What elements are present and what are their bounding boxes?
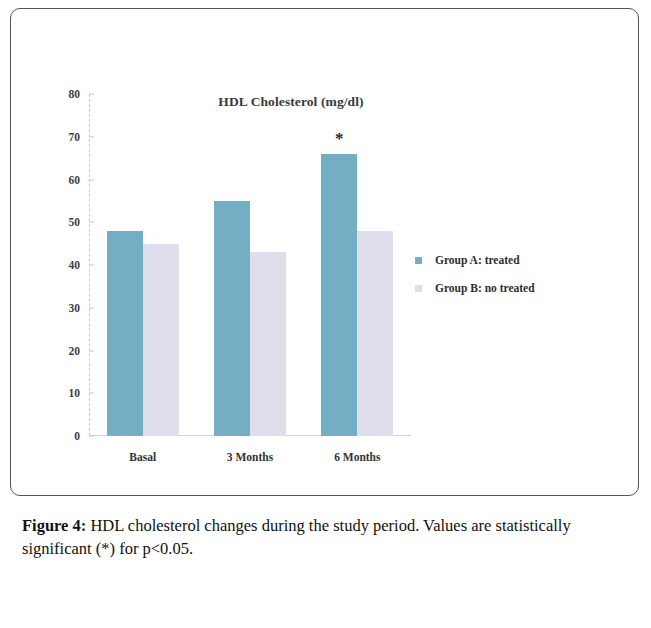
figure-frame: HDL Cholesterol (mg/dl) 0102030405060708… <box>10 8 639 496</box>
bar-group: Basal <box>89 94 196 436</box>
chart-legend: Group A: treatedGroup B: no treated <box>415 254 630 310</box>
y-axis-tick-label: 40 <box>69 259 81 271</box>
bar-group-b <box>250 252 286 436</box>
bar-group-a <box>107 231 143 436</box>
y-axis-tick-label: 0 <box>74 430 80 442</box>
legend-item: Group B: no treated <box>415 282 630 294</box>
figure-caption-text: HDL cholesterol changes during the study… <box>22 516 571 558</box>
bar-group: 6 Months <box>304 94 411 436</box>
x-axis-category-label: 3 Months <box>196 451 303 463</box>
plot-area: 01020304050607080Basal3 Months6 Months* <box>89 94 411 436</box>
bar-group: 3 Months <box>196 94 303 436</box>
y-axis-tick-label: 30 <box>69 302 81 314</box>
legend-swatch-icon <box>415 257 422 264</box>
y-axis-tick-label: 10 <box>69 387 81 399</box>
legend-item-label: Group B: no treated <box>435 282 535 294</box>
bar-group-a <box>214 201 250 436</box>
x-axis-category-label: Basal <box>89 451 196 463</box>
bar-group-b <box>143 244 179 436</box>
y-axis-tick-label: 50 <box>69 216 81 228</box>
legend-item: Group A: treated <box>415 254 630 266</box>
bar-group-a <box>321 154 357 436</box>
y-axis-tick-label: 70 <box>69 131 81 143</box>
y-axis-tick-label: 60 <box>69 174 81 186</box>
y-axis-tick-label: 20 <box>69 345 81 357</box>
figure-caption-label: Figure 4: <box>22 516 86 535</box>
x-axis-category-label: 6 Months <box>304 451 411 463</box>
legend-item-label: Group A: treated <box>435 254 520 266</box>
figure-caption: Figure 4: HDL cholesterol changes during… <box>22 515 632 561</box>
bar-chart: HDL Cholesterol (mg/dl) 0102030405060708… <box>11 9 640 497</box>
bar-group-b <box>357 231 393 436</box>
y-axis-tick-label: 80 <box>69 88 81 100</box>
significance-asterisk: * <box>335 130 344 147</box>
legend-swatch-icon <box>415 285 422 292</box>
